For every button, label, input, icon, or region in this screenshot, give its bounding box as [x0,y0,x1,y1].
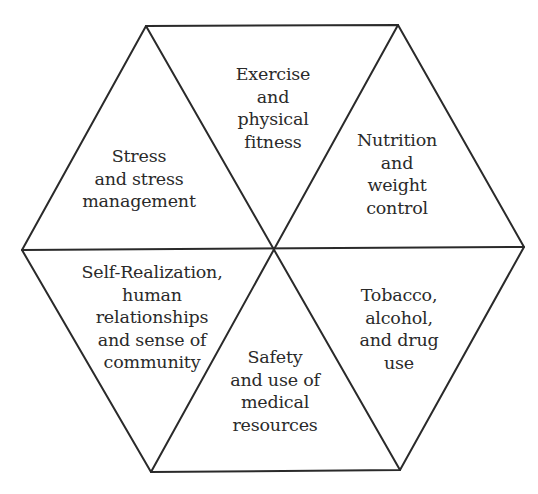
segment-self-realization-line-2: human [81,284,222,307]
segment-exercise-line-2: and [236,86,311,109]
segment-stress-line-3: management [82,190,196,213]
segment-exercise: Exercise and physical fitness [236,63,311,153]
segment-safety-line-2: and use of [230,369,320,392]
segment-tobacco-line-4: use [360,352,439,375]
segment-nutrition-line-3: weight [357,174,437,197]
segment-exercise-line-1: Exercise [236,63,311,86]
segment-tobacco-line-2: alcohol, [360,307,439,330]
segment-nutrition-line-1: Nutrition [357,129,437,152]
segment-stress-line-2: and stress [82,168,196,191]
segment-tobacco-line-1: Tobacco, [360,284,439,307]
segment-tobacco: Tobacco, alcohol, and drug use [360,284,439,374]
segment-nutrition: Nutrition and weight control [357,129,437,219]
segment-self-realization-line-3: relationships [81,306,222,329]
segment-exercise-line-3: physical [236,108,311,131]
segment-exercise-line-4: fitness [236,131,311,154]
segment-safety-line-4: resources [230,414,320,437]
segment-self-realization: Self-Realization, human relationships an… [81,261,222,374]
segment-nutrition-line-2: and [357,152,437,175]
segment-stress: Stress and stress management [82,145,196,213]
segment-nutrition-line-4: control [357,197,437,220]
segment-self-realization-line-4: and sense of [81,329,222,352]
segment-stress-line-1: Stress [82,145,196,168]
segment-safety: Safety and use of medical resources [230,346,320,436]
segment-tobacco-line-3: and drug [360,329,439,352]
segment-safety-line-3: medical [230,391,320,414]
segment-self-realization-line-5: community [81,351,222,374]
segment-safety-line-1: Safety [230,346,320,369]
segment-self-realization-line-1: Self-Realization, [81,261,222,284]
